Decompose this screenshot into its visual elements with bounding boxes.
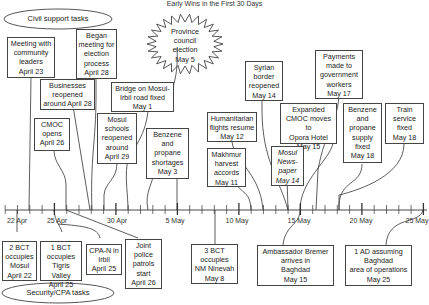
event-benzene-shortages: Benzene and propane shortages May 3 xyxy=(146,128,189,179)
event-payments-government-workers: Payments made to government workers May … xyxy=(315,50,363,99)
tick-label: 15 May xyxy=(288,217,311,224)
timeline-diagram: Early Wins in the First 30 Days Civil su… xyxy=(0,0,429,305)
province-council-election-label: Province council election May 5 xyxy=(159,27,211,64)
event-businesses-reopened: Businesses reopened around April 28 xyxy=(40,79,95,110)
event-mosul-schools-reopened: Mosul schools reopened around April 29 xyxy=(97,113,137,164)
tick-label: 10 May xyxy=(226,217,249,224)
tick-label: 22 Apr xyxy=(7,217,27,224)
event-cmoc-opens: CMOC opens April 26 xyxy=(34,118,70,151)
security-category-label: Security/CPA tasks xyxy=(2,288,114,298)
diagram-title: Early Wins in the First 30 Days xyxy=(0,0,429,8)
event-cpa-n-irbil: CPA-N in Irbil April 25 xyxy=(86,244,122,275)
event-3bct-occupies-ninevah: 3 BCT occupies NM Ninevah May 8 xyxy=(191,244,238,284)
event-meeting-community-leaders: Meeting with community leaders April 23 xyxy=(7,37,55,78)
event-benzene-supply-fixed: Benzene and propane supply fixed May 18 xyxy=(343,103,382,163)
tick-label: 30 Apr xyxy=(107,217,127,224)
civil-category-label: Civil support tasks xyxy=(4,14,112,24)
event-expanded-cmoc: Expanded CMOC moves to Opora Hotel May 1… xyxy=(280,103,337,144)
event-humanitarian-flights: Humanitarian flights resume May 12 xyxy=(207,112,257,142)
event-train-service-fixed: Train service fixed May 18 xyxy=(385,103,424,144)
event-bremer-arrives: Ambassador Bremer arrives in Baghdad May… xyxy=(257,245,334,286)
event-syrian-border-reopened: Syrian border reopened May 14 xyxy=(245,61,283,101)
tick-label: 25 Apr xyxy=(47,217,67,224)
tick-label: 25 May xyxy=(406,217,429,224)
event-bridge-fixed: Bridge on Mosul- Irbil road fixed May 1 xyxy=(111,82,174,112)
event-mosul-newspaper: Mosul News- paper May 14 xyxy=(271,146,304,186)
tick-label: 5 May xyxy=(165,217,184,224)
tick-label: 20 May xyxy=(350,217,373,224)
event-2bct-occupies-mosul: 2 BCT occupies Mosul April 22 xyxy=(2,241,37,281)
axis-ticks xyxy=(5,203,423,215)
event-1ad-baghdad: 1 AD assuming Baghdad area of operations… xyxy=(345,245,412,286)
event-makhmur-harvest: Makhmur harvest accords May 11 xyxy=(207,148,246,187)
event-1bct-occupies-tigris: 1 BCT occupies Tigris Valley April 25 xyxy=(40,241,82,281)
event-began-election-meeting: Began meeting for election process April… xyxy=(76,29,117,79)
security-connectors xyxy=(17,210,423,245)
event-joint-police-patrols: Joint police patrols start April 26 xyxy=(125,239,162,289)
